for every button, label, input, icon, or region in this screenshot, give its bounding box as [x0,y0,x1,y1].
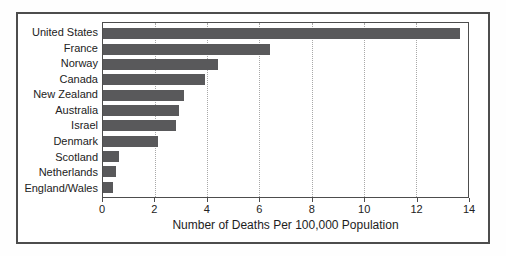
x-tick-label: 6 [256,203,262,215]
category-label: Denmark [14,135,98,148]
bar [103,28,460,39]
x-axis-title: Number of Deaths Per 100,000 Population [102,218,469,232]
category-label: United States [14,26,98,39]
category-label: England/Wales [14,182,98,195]
x-tick-label: 10 [358,203,370,215]
bar-row [103,105,468,116]
category-label: Australia [14,104,98,117]
category-label: Israel [14,119,98,132]
category-label: Netherlands [14,166,98,179]
x-tick-mark [207,198,208,202]
bar-row [103,166,468,177]
x-tick-label: 0 [99,203,105,215]
category-label: New Zealand [14,88,98,101]
x-tick-label: 2 [151,203,157,215]
x-tick-mark [469,198,470,202]
x-tick-mark [312,198,313,202]
category-label: Scotland [14,151,98,164]
bar-row [103,151,468,162]
bar [103,136,158,147]
x-tick-label: 12 [410,203,422,215]
category-labels: United StatesFranceNorwayCanadaNew Zeala… [14,22,98,198]
x-tick-label: 8 [309,203,315,215]
figure: United StatesFranceNorwayCanadaNew Zeala… [0,0,506,256]
bar [103,59,218,70]
bar-row [103,28,468,39]
x-tick-mark [102,198,103,202]
bar-row [103,44,468,55]
x-tick-label: 4 [204,203,210,215]
x-tick-mark [154,198,155,202]
bar-row [103,74,468,85]
category-label: France [14,42,98,55]
x-tick-mark [364,198,365,202]
bar-row [103,136,468,147]
bar-row [103,59,468,70]
bar [103,44,270,55]
bar [103,151,119,162]
x-axis: 02468101214 [102,198,469,218]
plot-area [102,22,469,198]
bar [103,182,113,193]
bar-row [103,120,468,131]
x-tick-mark [417,198,418,202]
bar [103,74,205,85]
x-tick-mark [259,198,260,202]
bar [103,105,179,116]
bar-rows [103,23,468,197]
category-label: Norway [14,57,98,70]
bar-row [103,182,468,193]
category-label: Canada [14,73,98,86]
x-tick-label: 14 [463,203,475,215]
bar [103,120,176,131]
bar-row [103,90,468,101]
bar [103,90,184,101]
bar [103,166,116,177]
